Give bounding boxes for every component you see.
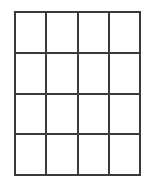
grid-cell-label-r1c2: [47, 13, 76, 52]
grid-cell-r3c3[interactable]: [78, 94, 109, 135]
canvas-background: [0, 0, 141, 176]
grid-cell-label-r1c1: [16, 13, 45, 52]
grid-cell-label-r4c1: [16, 135, 45, 174]
grid-cell-r1c1[interactable]: [15, 12, 46, 53]
grid-cell-r1c3[interactable]: [78, 12, 109, 53]
table-row: [15, 94, 140, 135]
grid-cell-r2c2[interactable]: [46, 53, 77, 94]
grid-cell-r2c3[interactable]: [78, 53, 109, 94]
empty-4x4-grid: [14, 11, 141, 176]
grid-cell-r3c1[interactable]: [15, 94, 46, 135]
grid-cell-label-r3c1: [16, 95, 45, 134]
grid-cell-r2c4[interactable]: [109, 53, 140, 94]
grid-cell-label-r4c4: [110, 135, 139, 174]
grid-cell-r4c1[interactable]: [15, 134, 46, 175]
grid-cell-r4c4[interactable]: [109, 134, 140, 175]
table-row: [15, 134, 140, 175]
grid-cell-label-r3c3: [79, 95, 108, 134]
grid-cell-r1c2[interactable]: [46, 12, 77, 53]
grid-cell-r1c4[interactable]: [109, 12, 140, 53]
grid-cell-r3c4[interactable]: [109, 94, 140, 135]
grid-cell-label-r2c1: [16, 54, 45, 93]
grid-cell-label-r2c2: [47, 54, 76, 93]
grid-cell-label-r2c4: [110, 54, 139, 93]
grid-cell-label-r3c2: [47, 95, 76, 134]
grid-cell-label-r3c4: [110, 95, 139, 134]
grid-cell-r4c3[interactable]: [78, 134, 109, 175]
grid-cell-label-r2c3: [79, 54, 108, 93]
grid-cell-r4c2[interactable]: [46, 134, 77, 175]
grid-cell-label-r4c2: [47, 135, 76, 174]
grid-cell-label-r4c3: [79, 135, 108, 174]
grid-cell-r2c1[interactable]: [15, 53, 46, 94]
grid-body: [15, 12, 140, 175]
table-row: [15, 12, 140, 53]
grid-cell-label-r1c3: [79, 13, 108, 52]
grid-cell-label-r1c4: [110, 13, 139, 52]
grid-cell-r3c2[interactable]: [46, 94, 77, 135]
table-row: [15, 53, 140, 94]
